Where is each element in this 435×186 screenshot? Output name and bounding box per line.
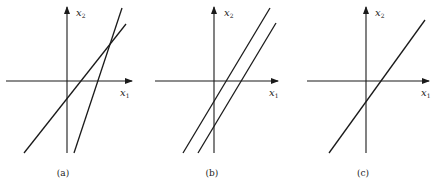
x2-label: x2 bbox=[375, 7, 385, 19]
panel-c: x2 x1 (c) bbox=[307, 7, 430, 178]
caption-c: (c) bbox=[357, 168, 369, 178]
line-2 bbox=[198, 23, 276, 153]
x1-label: x1 bbox=[120, 87, 129, 99]
caption-b: (b) bbox=[206, 168, 219, 178]
caption-a: (a) bbox=[57, 168, 69, 178]
x1-label: x1 bbox=[269, 87, 278, 99]
panel-a: x2 x1 (a) bbox=[6, 7, 132, 178]
figure-canvas: x2 x1 (a) x2 x1 (b) x2 x1 (c) bbox=[0, 0, 435, 186]
x2-label: x2 bbox=[76, 7, 86, 19]
panel-b: x2 x1 (b) bbox=[155, 7, 278, 178]
x2-label: x2 bbox=[224, 7, 234, 19]
line-1 bbox=[329, 20, 425, 153]
x1-label: x1 bbox=[421, 87, 430, 99]
